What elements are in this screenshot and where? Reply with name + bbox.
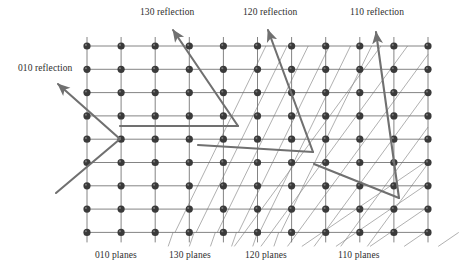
plane-label-130: 130 planes	[169, 250, 211, 260]
lattice-node	[424, 182, 431, 189]
reflected-ray	[173, 30, 238, 126]
lattice-node	[254, 136, 261, 143]
lattice-node	[254, 159, 261, 166]
lattice-node	[322, 136, 329, 143]
lattice-node	[220, 89, 227, 96]
lattice-node	[288, 136, 295, 143]
lattice-node	[118, 229, 125, 236]
lattice-node	[152, 159, 159, 166]
lattice-node	[288, 112, 295, 119]
lattice-node	[288, 66, 295, 73]
reflection-label-130: 130 reflection	[140, 7, 194, 17]
lattice-node	[322, 182, 329, 189]
lattice-node	[424, 112, 431, 119]
lattice-node	[424, 159, 431, 166]
lattice-node	[186, 229, 193, 236]
lattice-node	[254, 206, 261, 213]
lattice-node	[356, 66, 363, 73]
lattice-node	[424, 89, 431, 96]
lattice-node	[186, 66, 193, 73]
lattice-node	[152, 112, 159, 119]
lattice-node	[288, 42, 295, 49]
lattice-node	[83, 229, 90, 236]
lattice-node	[118, 206, 125, 213]
lattice-node	[424, 206, 431, 213]
lattice-node	[118, 89, 125, 96]
lattice-node	[118, 42, 125, 49]
lattice-node	[118, 112, 125, 119]
lattice-node	[254, 42, 261, 49]
lattice-node	[288, 206, 295, 213]
lattice-node	[220, 159, 227, 166]
lattice-node	[322, 112, 329, 119]
lattice-node	[152, 136, 159, 143]
plane-label-010: 010 planes	[95, 250, 137, 260]
lattice-node	[390, 229, 397, 236]
lattice-node	[424, 136, 431, 143]
lattice-node	[288, 159, 295, 166]
lattice-node	[83, 112, 90, 119]
lattice-node	[254, 229, 261, 236]
lattice-node	[118, 159, 125, 166]
lattice-node	[322, 206, 329, 213]
lattice-node	[390, 42, 397, 49]
lattice-node	[356, 159, 363, 166]
reflection-label-110: 110 reflection	[350, 7, 404, 17]
lattice-node	[356, 206, 363, 213]
plane-label-120: 120 planes	[245, 250, 287, 260]
reflection-rays	[56, 30, 399, 198]
lattice-node	[220, 182, 227, 189]
lattice-node	[186, 89, 193, 96]
lattice-node	[220, 136, 227, 143]
lattice-node	[220, 229, 227, 236]
reflection-label-010: 010 reflection	[18, 63, 72, 73]
lattice-node	[424, 66, 431, 73]
lattice-node	[254, 89, 261, 96]
lattice-node	[152, 66, 159, 73]
lattice-node	[356, 136, 363, 143]
lattice-node	[390, 89, 397, 96]
lattice-node	[288, 229, 295, 236]
lattice-node	[322, 42, 329, 49]
lattice-node	[254, 182, 261, 189]
lattice-node	[83, 136, 90, 143]
lattice-node	[424, 229, 431, 236]
lattice-node	[220, 112, 227, 119]
lattice-node	[83, 66, 90, 73]
lattice-node	[83, 89, 90, 96]
plane-label-110: 110 planes	[338, 250, 380, 260]
lattice-node	[220, 42, 227, 49]
lattice-node	[322, 66, 329, 73]
lattice-reflection-figure: 010 reflection 130 reflection 120 reflec…	[0, 0, 463, 273]
lattice-node	[390, 112, 397, 119]
lattice-node	[356, 112, 363, 119]
lattice-node	[254, 112, 261, 119]
lattice-node	[152, 182, 159, 189]
lattice-node	[152, 89, 159, 96]
lattice-node	[322, 89, 329, 96]
lattice-node	[152, 229, 159, 236]
lattice-node	[220, 66, 227, 73]
lattice-node	[83, 206, 90, 213]
lattice-node	[390, 66, 397, 73]
lattice-node	[83, 42, 90, 49]
lattice-node	[118, 182, 125, 189]
lattice-node	[186, 182, 193, 189]
lattice-node	[356, 42, 363, 49]
lattice-node	[220, 206, 227, 213]
lattice-node	[186, 206, 193, 213]
lattice-node	[356, 89, 363, 96]
lattice-node	[83, 182, 90, 189]
lattice-node	[356, 229, 363, 236]
lattice-node	[254, 66, 261, 73]
lattice-node	[186, 159, 193, 166]
lattice-node	[288, 182, 295, 189]
lattice-node	[152, 42, 159, 49]
lattice-node	[186, 112, 193, 119]
incident-ray	[198, 145, 313, 152]
lattice-node	[390, 206, 397, 213]
lattice-node	[152, 206, 159, 213]
lattice-node	[322, 159, 329, 166]
lattice-node	[424, 42, 431, 49]
lattice-node	[322, 229, 329, 236]
